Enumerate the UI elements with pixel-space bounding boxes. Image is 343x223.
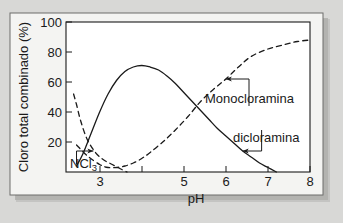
y-tick-label: 20 (48, 135, 62, 150)
chart-svg: 100 80 60 40 20 3 5 6 7 8 pH Cloro total… (0, 0, 343, 223)
x-axis-title: pH (188, 191, 205, 206)
annotation-label-monocloramina: Monocloramina (205, 91, 295, 106)
x-tick-label: 8 (306, 174, 313, 189)
annotation-label-dicloramina: dicloramina (233, 130, 300, 145)
y-tick-label: 40 (48, 105, 62, 120)
annotation-label-ncl3-main: NCl (70, 156, 92, 171)
y-axis-title: Cloro total combinado (%) (16, 22, 31, 172)
x-tick-label: 7 (264, 174, 271, 189)
y-tick-label: 80 (48, 45, 62, 60)
x-tick-label: 6 (222, 174, 229, 189)
chart-figure: 100 80 60 40 20 3 5 6 7 8 pH Cloro total… (0, 0, 343, 223)
y-tick-label: 100 (40, 15, 62, 30)
annotation-label-ncl3-subscript: 3 (92, 162, 97, 173)
x-tick-label: 3 (96, 174, 103, 189)
x-tick-label: 5 (180, 174, 187, 189)
y-tick-label: 60 (48, 75, 62, 90)
